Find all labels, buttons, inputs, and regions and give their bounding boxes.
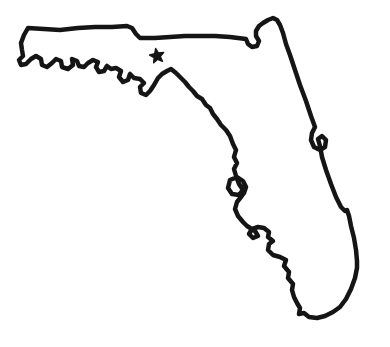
state-outline (19, 18, 357, 318)
map-canvas (0, 0, 390, 347)
florida-outline-map (0, 0, 390, 347)
star-marker-icon (150, 49, 164, 63)
